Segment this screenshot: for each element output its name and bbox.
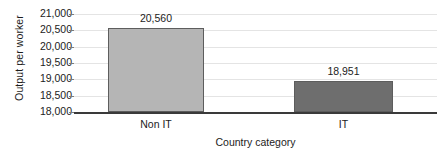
x-axis-line <box>74 112 437 114</box>
x-axis-category-label: Non IT <box>108 118 204 130</box>
y-axis-tick-label: 20,500 <box>18 24 72 35</box>
bar-value-label: 20,560 <box>108 13 204 24</box>
plot-area: 20,56018,951 <box>74 14 437 112</box>
y-axis-tick-mark <box>69 79 74 80</box>
y-axis-tick-mark <box>69 112 74 113</box>
y-axis-tick-label: 19,000 <box>18 73 72 84</box>
y-axis-tick-label: 18,000 <box>18 106 72 117</box>
y-axis-tick-mark <box>69 96 74 97</box>
x-axis-category-label: IT <box>294 118 393 130</box>
bar-it[interactable] <box>294 81 393 112</box>
y-axis-tick-mark <box>69 30 74 31</box>
y-axis-tick-label: 18,500 <box>18 90 72 101</box>
y-axis-tick-mark <box>69 47 74 48</box>
bar-value-label: 18,951 <box>294 66 393 77</box>
y-axis-tick-label: 20,000 <box>18 41 72 52</box>
bar-chart: Output per worker 21,00020,50020,00019,5… <box>0 0 446 157</box>
y-axis-tick-label: 19,500 <box>18 57 72 68</box>
y-axis-tick-labels: 21,00020,50020,00019,50019,00018,50018,0… <box>18 8 72 118</box>
x-axis-title: Country category <box>74 136 437 148</box>
bar-non-it[interactable] <box>108 28 204 112</box>
y-axis-tick-mark <box>69 63 74 64</box>
y-axis-tick-mark <box>69 14 74 15</box>
y-axis-tick-label: 21,000 <box>18 8 72 19</box>
